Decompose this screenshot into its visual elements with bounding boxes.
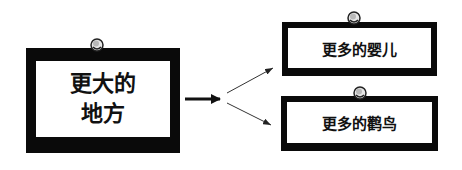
target-label-babies: 更多的婴儿 (322, 38, 397, 59)
pushpin-icon (347, 11, 361, 25)
source-box: 更大的 地方 (26, 48, 180, 153)
target-label-storks: 更多的鹳鸟 (322, 112, 397, 133)
pushpin-icon (90, 38, 104, 52)
pushpin-icon (353, 86, 367, 100)
source-line-1: 更大的 (70, 69, 136, 99)
target-box-babies: 更多的婴儿 (282, 22, 437, 76)
arrow-to-babies (227, 68, 273, 93)
target-box-storks: 更多的鹳鸟 (281, 96, 438, 151)
arrow-to-storks (227, 103, 271, 125)
source-line-2: 地方 (70, 99, 136, 129)
